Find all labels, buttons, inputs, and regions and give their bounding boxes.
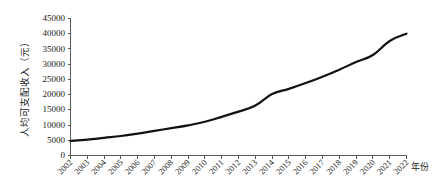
x-tick-label: 2011 [207, 157, 226, 176]
x-tick-label: 2015 [274, 157, 293, 176]
x-axis-tick-labels: 2002200320042005200620072008200920102011… [55, 157, 410, 177]
x-tick-label: 2006 [123, 157, 142, 176]
x-axis-title-text: 年份 [411, 161, 429, 172]
x-tick-label: 2012 [223, 157, 242, 176]
y-tick-label: 45000 [43, 13, 66, 23]
data-series-line [71, 34, 407, 141]
x-tick-label: 2010 [190, 157, 209, 176]
x-tick-label: 2009 [173, 157, 192, 176]
x-tick-label: 2022 [391, 157, 410, 176]
y-tick-label: 35000 [43, 44, 66, 54]
y-tick-label: 25000 [43, 74, 66, 84]
line-chart: 人均可支配收入（元） 05000100001500020000250003000… [0, 0, 439, 191]
x-tick-label: 2003 [72, 157, 91, 176]
y-axis-title: 人均可支配收入（元） [19, 37, 30, 137]
y-tick-label: 30000 [43, 59, 66, 69]
x-tick-label: 2020 [358, 157, 377, 176]
chart-axes [68, 19, 407, 159]
income-line-series [71, 34, 407, 141]
y-axis-title-text: 人均可支配收入（元） [19, 37, 30, 137]
x-tick-label: 2013 [240, 157, 259, 176]
x-tick-label: 2004 [89, 157, 109, 177]
x-tick-label: 2019 [341, 157, 360, 176]
x-tick-label: 2018 [324, 157, 343, 176]
x-tick-label: 2008 [156, 157, 175, 176]
x-tick-label: 2005 [106, 157, 125, 176]
y-tick-label: 20000 [43, 89, 66, 99]
x-tick-label: 2021 [375, 157, 394, 176]
y-tick-label: 10000 [43, 120, 66, 130]
y-tick-label: 40000 [43, 28, 66, 38]
y-tick-label: 15000 [43, 104, 66, 114]
x-tick-label: 2014 [257, 157, 277, 177]
chart-container: 人均可支配收入（元） 05000100001500020000250003000… [0, 0, 439, 191]
x-tick-label: 2002 [55, 157, 74, 176]
y-tick-label: 5000 [47, 135, 66, 145]
x-tick-label: 2017 [307, 157, 326, 176]
x-axis-title: 年份 [411, 161, 429, 172]
x-tick-label: 2007 [139, 157, 158, 176]
x-tick-label: 2016 [291, 157, 310, 176]
y-axis-tick-labels: 0500010000150002000025000300003500040000… [43, 13, 66, 160]
